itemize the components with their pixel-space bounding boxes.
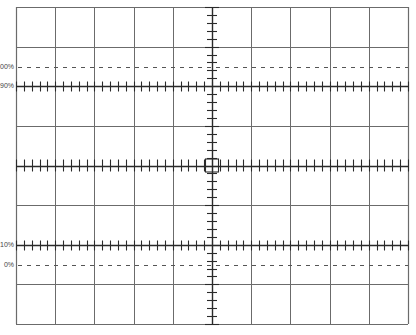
label-0-percent: 0% [0, 261, 14, 269]
label-10-percent: 10% [0, 241, 14, 249]
label-90-percent: 90% [0, 82, 14, 90]
label-100-percent: 100% [0, 63, 14, 71]
graticule-grid [0, 0, 416, 335]
graticule: 100% 90% 10% 0% [0, 0, 416, 335]
